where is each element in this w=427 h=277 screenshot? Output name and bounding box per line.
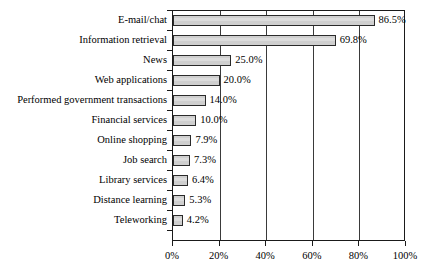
category-label: Online shopping [0,133,167,147]
bar [173,175,188,186]
bar-highlight [174,138,190,141]
category-label: Information retrieval [0,33,167,47]
bar [173,155,190,166]
bar-row: 5.3% [173,191,404,211]
bar-chart: E-mail/chatInformation retrievalNewsWeb … [0,0,427,277]
value-tick-40% [265,241,266,246]
bar-value-label: 25.0% [235,52,262,68]
category-label: Job search [0,153,167,167]
bar-row: 7.3% [173,151,404,171]
bar [173,115,196,126]
bar-value-label: 5.3% [189,192,211,208]
bar-value-label: 10.0% [200,112,227,128]
bar-highlight [174,118,195,121]
category-label: Financial services [0,113,167,127]
category-label: Distance learning [0,193,167,207]
bar-value-label: 14.0% [210,92,237,108]
bar-highlight [174,78,219,81]
category-label: Web applications [0,73,167,87]
bar-value-label: 69.8% [340,32,367,48]
category-label: Performed government transactions [0,93,167,107]
bar-row: 4.2% [173,211,404,231]
bar-highlight [174,58,230,61]
bar-value-label: 86.5% [379,12,406,28]
bar-value-label: 7.3% [194,152,216,168]
bar-highlight [174,158,189,161]
bar-highlight [174,98,205,101]
bar-highlight [174,218,182,221]
bar [173,95,206,106]
bar-value-label: 4.2% [187,212,209,228]
bar [173,215,183,226]
bar-row: 6.4% [173,171,404,191]
value-tick-100% [405,241,406,246]
category-label: Teleworking [0,213,167,227]
plot-area: 86.5%69.8%25.0%20.0%14.0%10.0%7.9%7.3%6.… [172,10,405,241]
bar-highlight [174,178,187,181]
bar-row: 69.8% [173,31,404,51]
bar-row: 10.0% [173,111,404,131]
bar-value-label: 20.0% [224,72,251,88]
bar-row: 86.5% [173,11,404,31]
bar-highlight [174,18,374,21]
value-axis-label: 100% [375,249,427,263]
bar [173,195,185,206]
bar-row: 7.9% [173,131,404,151]
value-tick-60% [312,241,313,246]
category-label: E-mail/chat [0,13,167,27]
bar-highlight [174,38,335,41]
bar-row: 25.0% [173,51,404,71]
bar-row: 14.0% [173,91,404,111]
category-label: News [0,53,167,67]
bar [173,15,375,26]
category-label: Library services [0,173,167,187]
bar-row: 20.0% [173,71,404,91]
bar-highlight [174,198,184,201]
bar [173,135,191,146]
bar [173,75,220,86]
bar-value-label: 6.4% [192,172,214,188]
bar [173,35,336,46]
bar [173,55,231,66]
value-tick-20% [219,241,220,246]
value-tick-80% [358,241,359,246]
bar-value-label: 7.9% [195,132,217,148]
value-tick-0% [172,241,173,246]
